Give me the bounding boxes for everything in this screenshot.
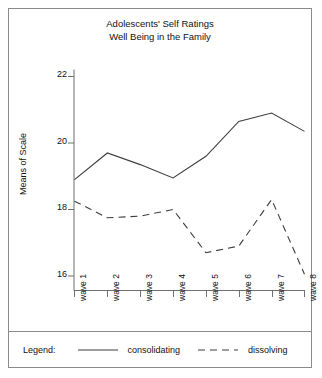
y-tick-label-16: 16: [41, 269, 67, 279]
series-line-dissolving: [75, 200, 305, 275]
x-tick-label-wave-3: wave 3: [144, 274, 154, 301]
x-tick-label-wave-5: wave 5: [210, 274, 220, 301]
y-axis-label: Means of Scale: [18, 104, 28, 224]
legend-title: Legend:: [23, 345, 56, 355]
chart-figure: Adolescents' Self Ratings Well Being in …: [8, 8, 312, 368]
x-tick-label-wave-8: wave 8: [308, 274, 318, 301]
legend-swatch-dissolving: [198, 346, 238, 354]
legend-label-consolidating: consolidating: [128, 345, 181, 355]
y-tick-label-22: 22: [41, 69, 67, 79]
x-tick-label-wave-2: wave 2: [111, 274, 121, 301]
plot-area: Means of Scale 22 20 18 16: [9, 9, 313, 331]
series-line-consolidating: [75, 113, 305, 180]
x-tick-label-wave-7: wave 7: [276, 274, 286, 301]
legend-swatch-consolidating: [78, 346, 118, 354]
chart-canvas: [9, 9, 313, 331]
x-tick-label-wave-6: wave 6: [243, 274, 253, 301]
legend-label-dissolving: dissolving: [248, 345, 288, 355]
x-tick-label-wave-4: wave 4: [177, 274, 187, 301]
y-tick-label-20: 20: [41, 136, 67, 146]
y-tick-marks: [68, 77, 74, 277]
chart-legend: Legend: consolidating dissolving: [9, 331, 311, 367]
x-tick-label-wave-1: wave 1: [78, 274, 88, 301]
x-tick-marks: [75, 291, 305, 298]
y-tick-label-18: 18: [41, 202, 67, 212]
